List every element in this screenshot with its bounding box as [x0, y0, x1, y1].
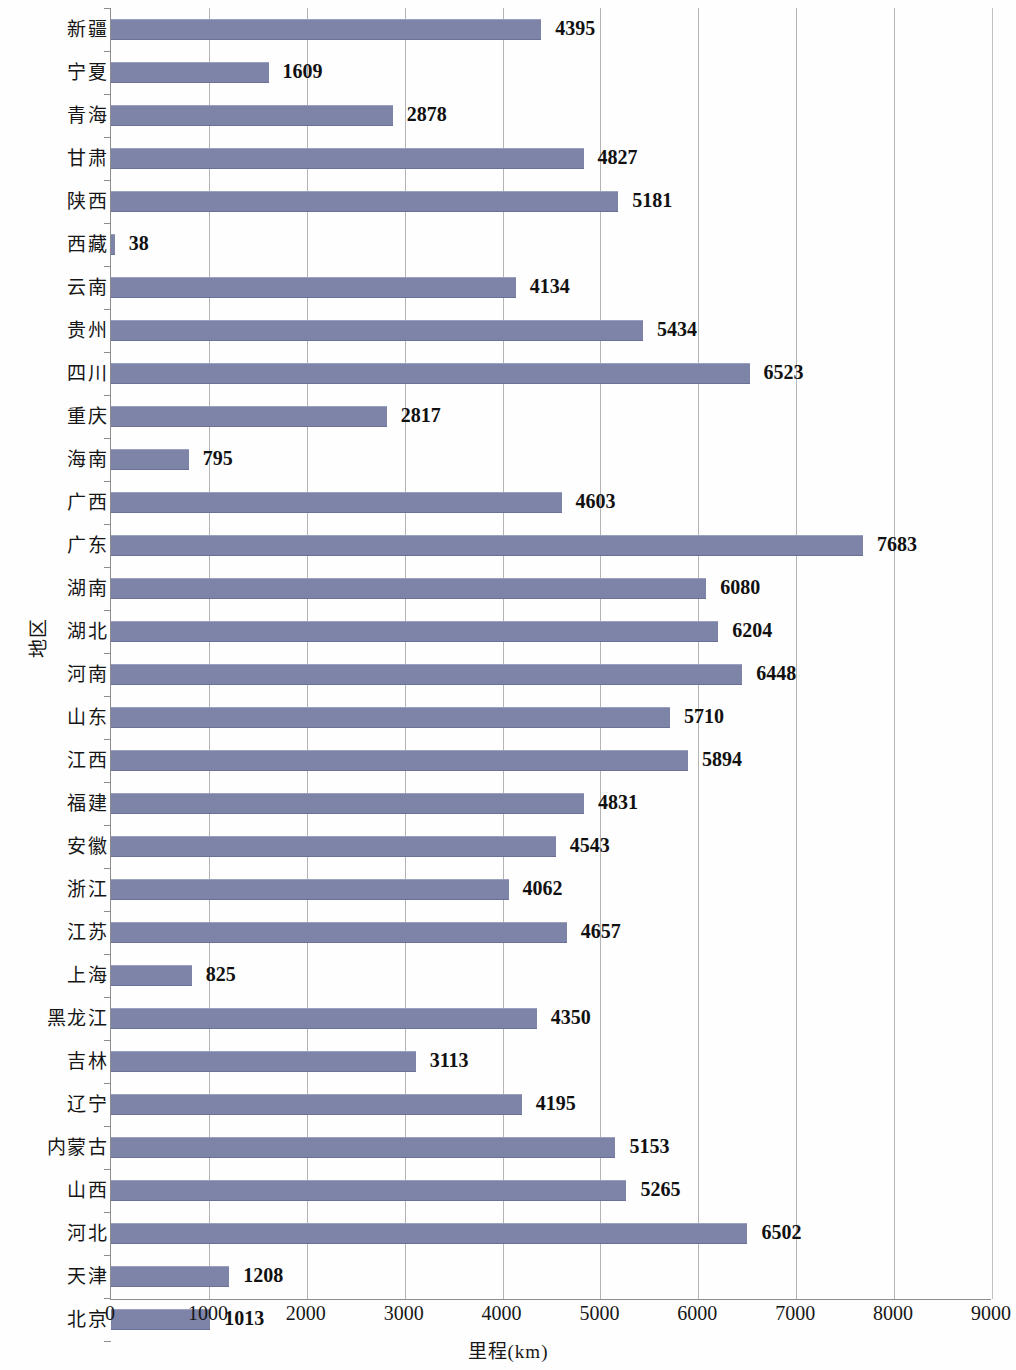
- bar-value-label: 4195: [536, 1093, 576, 1114]
- bar[interactable]: [111, 406, 387, 427]
- bar-row[interactable]: 825: [111, 954, 991, 997]
- y-axis-category-label: 江苏: [18, 923, 108, 942]
- y-axis-tick: [104, 739, 111, 740]
- y-axis-category-label: 广东: [18, 536, 108, 555]
- bar-row[interactable]: 4603: [111, 481, 991, 524]
- y-axis-category-label: 海南: [18, 450, 108, 469]
- bar-row[interactable]: 6448: [111, 653, 991, 696]
- bar-row[interactable]: 38: [111, 223, 991, 266]
- x-tick-label: 9000: [971, 1302, 1011, 1325]
- bar[interactable]: [111, 320, 643, 341]
- bar-row[interactable]: 7683: [111, 524, 991, 567]
- y-axis-tick: [104, 782, 111, 783]
- y-axis-category-label: 广西: [18, 493, 108, 512]
- bar[interactable]: [111, 449, 189, 470]
- bar-row[interactable]: 6204: [111, 610, 991, 653]
- x-tick-label: 3000: [384, 1302, 424, 1325]
- y-axis-category-label: 北京: [18, 1310, 108, 1329]
- bar[interactable]: [111, 578, 706, 599]
- bar-row[interactable]: 4827: [111, 137, 991, 180]
- bar[interactable]: [111, 664, 742, 685]
- bar[interactable]: [111, 965, 192, 986]
- bar[interactable]: [111, 105, 393, 126]
- bar[interactable]: [111, 1180, 626, 1201]
- y-axis-tick: [104, 1169, 111, 1170]
- bar-value-label: 1609: [283, 61, 323, 82]
- bar-row[interactable]: 6502: [111, 1212, 991, 1255]
- bar-row[interactable]: 2878: [111, 94, 991, 137]
- y-axis-tick: [104, 223, 111, 224]
- bar-row[interactable]: 4195: [111, 1083, 991, 1126]
- bar[interactable]: [111, 535, 863, 556]
- y-axis-tick: [104, 438, 111, 439]
- bar-row[interactable]: 5181: [111, 180, 991, 223]
- y-axis-tick: [104, 954, 111, 955]
- y-axis-category-label: 青海: [18, 106, 108, 125]
- x-tick-label: 2000: [286, 1302, 326, 1325]
- bar-row[interactable]: 5153: [111, 1126, 991, 1169]
- y-axis-tick: [104, 1212, 111, 1213]
- bar[interactable]: [111, 1051, 416, 1072]
- bar[interactable]: [111, 621, 718, 642]
- bar[interactable]: [111, 19, 541, 40]
- x-axis-tick-labels: 1000200030004000500060007000800090000: [110, 1302, 991, 1336]
- bar-row[interactable]: 1208: [111, 1255, 991, 1298]
- bar[interactable]: [111, 1266, 229, 1287]
- bar-row[interactable]: 5894: [111, 739, 991, 782]
- bar-row[interactable]: 4395: [111, 8, 991, 51]
- bar-row[interactable]: 5265: [111, 1169, 991, 1212]
- bar-value-label: 1208: [243, 1265, 283, 1286]
- bar-row[interactable]: 3113: [111, 1040, 991, 1083]
- bar-value-label: 4134: [530, 276, 570, 297]
- bar[interactable]: [111, 492, 562, 513]
- bar-row[interactable]: 4831: [111, 782, 991, 825]
- y-axis-category-labels: 新疆宁夏青海甘肃陕西西藏云南贵州四川重庆海南广西广东湖南湖北河南山东江西福建安徽…: [18, 0, 108, 1300]
- bar-row[interactable]: 1609: [111, 51, 991, 94]
- bar[interactable]: [111, 191, 618, 212]
- y-axis-tick: [104, 1255, 111, 1256]
- bar[interactable]: [111, 922, 567, 943]
- bar[interactable]: [111, 234, 115, 255]
- bar-row[interactable]: 5434: [111, 309, 991, 352]
- bar-row[interactable]: 4657: [111, 911, 991, 954]
- bar-row[interactable]: 6080: [111, 567, 991, 610]
- y-axis-tick: [104, 524, 111, 525]
- bar[interactable]: [111, 1223, 747, 1244]
- bar[interactable]: [111, 750, 688, 771]
- bar-value-label: 4395: [555, 18, 595, 39]
- bar-value-label: 38: [129, 233, 149, 254]
- y-axis-category-label: 浙江: [18, 880, 108, 899]
- y-axis-category-label: 河南: [18, 665, 108, 684]
- bar-value-label: 5894: [702, 749, 742, 770]
- bar[interactable]: [111, 62, 269, 83]
- bar[interactable]: [111, 707, 670, 728]
- bar-value-label: 5181: [632, 190, 672, 211]
- bar[interactable]: [111, 363, 750, 384]
- bar-row[interactable]: 4543: [111, 825, 991, 868]
- bar[interactable]: [111, 879, 509, 900]
- bar[interactable]: [111, 793, 584, 814]
- bar-value-label: 4603: [576, 491, 616, 512]
- bar-row[interactable]: 4134: [111, 266, 991, 309]
- bar[interactable]: [111, 1008, 537, 1029]
- y-axis-category-label: 河北: [18, 1224, 108, 1243]
- x-tick-label: 7000: [775, 1302, 815, 1325]
- y-axis-tick: [104, 610, 111, 611]
- bar-value-label: 6523: [764, 362, 804, 383]
- bar-row[interactable]: 6523: [111, 352, 991, 395]
- bar[interactable]: [111, 1094, 522, 1115]
- y-axis-category-label: 山东: [18, 708, 108, 727]
- bar[interactable]: [111, 277, 516, 298]
- y-axis-category-label: 天津: [18, 1267, 108, 1286]
- bar-row[interactable]: 4350: [111, 997, 991, 1040]
- bar[interactable]: [111, 1137, 615, 1158]
- bar-row[interactable]: 795: [111, 438, 991, 481]
- x-tick-label: 6000: [677, 1302, 717, 1325]
- bar-row[interactable]: 4062: [111, 868, 991, 911]
- bar[interactable]: [111, 836, 556, 857]
- y-axis-tick: [104, 1126, 111, 1127]
- bar-row[interactable]: 5710: [111, 696, 991, 739]
- x-axis-title: 里程(km): [0, 1336, 1016, 1363]
- bar[interactable]: [111, 148, 584, 169]
- bar-row[interactable]: 2817: [111, 395, 991, 438]
